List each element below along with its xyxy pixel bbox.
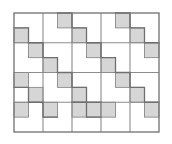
shaded-cell [29,43,44,58]
shaded-cell [58,13,73,28]
shaded-cell [43,58,58,73]
shaded-cell [72,28,87,43]
shaded-cell [29,87,44,102]
shaded-cell [72,102,87,117]
shaded-cell [43,102,58,117]
shaded-cell [58,73,73,88]
shaded-cell [130,87,145,102]
shaded-cell [130,28,145,43]
shaded-cell [14,28,29,43]
shaded-cell [87,102,102,117]
shaded-cell [116,73,131,88]
shaded-cell [87,43,102,58]
shaded-cell [101,58,116,73]
shaded-cell [145,102,160,117]
shaded-cell [101,102,116,117]
tiling-diagram-svg [0,0,172,144]
shaded-cell [116,13,131,28]
shaded-cell [14,102,29,117]
shaded-cell [72,87,87,102]
shaded-cell [14,73,29,88]
shaded-cell [145,43,160,58]
tiling-figure [0,0,172,144]
